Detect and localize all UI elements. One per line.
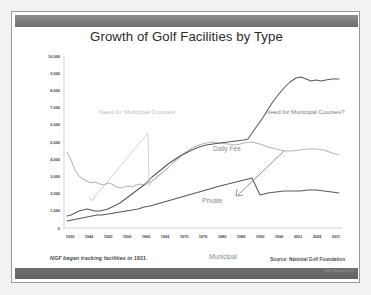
footnote-text: NGF began tracking facilities in 1931. xyxy=(50,255,147,261)
x-tick-1986: 1986 xyxy=(237,234,246,239)
x-tick-2011: 2011 xyxy=(332,234,341,239)
annotation-arrowhead-question xyxy=(236,189,243,196)
annotation-label-municipal-exclaim: Need for Municipal Courses! xyxy=(99,108,176,115)
chart-plot-area: 10,000 9,000 8,000 7,000 6,000 5,000 4,0… xyxy=(12,48,361,260)
x-tick-1980: 1980 xyxy=(218,234,227,239)
series-label-private: Private xyxy=(202,197,223,204)
x-tick-1970: 1970 xyxy=(180,234,189,239)
y-tick-8000: 8,000 xyxy=(50,88,60,93)
x-tick-1966: 1966 xyxy=(161,234,170,239)
y-tick-1000: 1,000 xyxy=(50,208,60,213)
footer-watermark: Golf Inbound 2012 xyxy=(324,269,354,273)
annotation-arrowhead-exclaim-start xyxy=(89,197,95,201)
y-tick-6000: 6,000 xyxy=(50,122,60,127)
x-tick-1956: 1956 xyxy=(123,234,132,239)
golf-facilities-line-chart: 10,000 9,000 8,000 7,000 6,000 5,000 4,0… xyxy=(12,48,361,260)
annotation-arrow-municipal-exclaim-drop xyxy=(148,133,149,185)
annotation-label-municipal-question: Need for Municipal Courses? xyxy=(266,108,345,115)
x-tick-1990: 1990 xyxy=(256,234,265,239)
annotation-arrow-municipal-question xyxy=(238,151,284,195)
y-tick-7000: 7,000 xyxy=(50,105,60,110)
x-tick-1930: 1930 xyxy=(66,234,75,239)
x-tick-1946: 1946 xyxy=(85,234,94,239)
y-tick-2000: 2,000 xyxy=(50,191,60,196)
slide-header-bar xyxy=(15,15,358,27)
series-line-daily-fee xyxy=(67,77,339,216)
page-title: Growth of Golf Facilities by Type xyxy=(12,29,361,44)
annotation-arrow-municipal-exclaim xyxy=(92,133,148,200)
y-tick-4000: 4,000 xyxy=(50,157,60,162)
y-tick-10000: 10,000 xyxy=(48,54,60,59)
y-tick-0: 0 xyxy=(58,226,60,231)
slide-footer-bar: Golf Inbound 2012 xyxy=(15,268,358,279)
series-label-municipal: Municipal xyxy=(209,253,237,260)
y-tick-5000: 5,000 xyxy=(50,140,60,145)
slide-frame: Growth of Golf Facilities by Type 10,000… xyxy=(11,11,360,283)
y-tick-9000: 9,000 xyxy=(50,71,60,76)
x-tick-2006: 2006 xyxy=(313,234,322,239)
x-tick-1976: 1976 xyxy=(199,234,208,239)
series-label-daily-fee: Daily Fee xyxy=(213,145,241,153)
y-tick-3000: 3,000 xyxy=(50,174,60,179)
x-tick-1960: 1960 xyxy=(142,234,151,239)
x-tick-1950: 1950 xyxy=(104,234,113,239)
x-tick-2001: 2001 xyxy=(294,234,303,239)
source-attribution: Source: National Golf Foundation xyxy=(270,257,345,262)
x-tick-1996: 1996 xyxy=(275,234,284,239)
